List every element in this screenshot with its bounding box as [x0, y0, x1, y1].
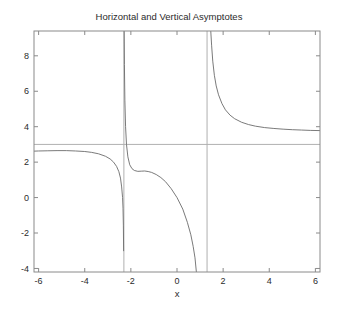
x-tick-label: 2 — [221, 276, 226, 286]
asymptotes-plot: Horizontal and Vertical Asymptotes -6-4-… — [0, 0, 338, 309]
x-tick-label: -2 — [127, 276, 135, 286]
y-tick-label: 8 — [24, 51, 29, 61]
y-tick-label: -4 — [21, 264, 29, 274]
x-tick-label: 0 — [174, 276, 179, 286]
y-tick-label: 4 — [24, 122, 29, 132]
figure-canvas: Horizontal and Vertical Asymptotes -6-4-… — [0, 0, 338, 309]
x-tick-label: 6 — [313, 276, 318, 286]
x-tick-label: -4 — [81, 276, 89, 286]
x-tick-label: 4 — [267, 276, 272, 286]
y-tick-label: 6 — [24, 86, 29, 96]
y-tick-label: -2 — [21, 228, 29, 238]
x-axis-label: x — [175, 288, 180, 299]
plot-background — [0, 0, 338, 309]
x-tick-label: -6 — [35, 276, 43, 286]
chart-title: Horizontal and Vertical Asymptotes — [96, 11, 243, 22]
y-tick-label: 2 — [24, 157, 29, 167]
y-tick-label: 0 — [24, 193, 29, 203]
